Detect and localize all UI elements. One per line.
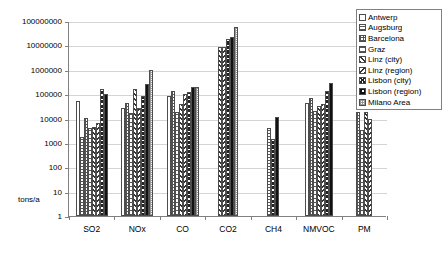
bar xyxy=(368,119,372,217)
legend-swatch-icon xyxy=(359,99,366,106)
y-axis-units-label: tons/a xyxy=(18,196,40,204)
y-axis-label: 1000 xyxy=(44,140,62,148)
legend-item-label: Milano Area xyxy=(368,98,410,107)
legend-item-lisbon-city[interactable]: Lisbon (city) xyxy=(359,76,439,87)
bar-group-so2 xyxy=(69,22,114,216)
y-axis-label: 10000000 xyxy=(26,42,62,50)
x-axis-tick xyxy=(205,216,206,220)
legend-item-barcelona[interactable]: Barcelona xyxy=(359,33,439,44)
legend-item-label: Lisbon (city) xyxy=(368,76,411,85)
bar xyxy=(329,83,333,217)
bar xyxy=(234,27,238,216)
x-axis-label-ch4: CH4 xyxy=(251,225,296,234)
bar xyxy=(275,117,279,216)
bar xyxy=(195,87,199,216)
legend-item-label: Lisbon (region) xyxy=(368,87,421,96)
legend-item-label: Linz (city) xyxy=(368,55,402,64)
x-axis-label-so2: SO2 xyxy=(69,225,114,234)
emissions-bar-chart: tons/a 100000000100000001000000100000100… xyxy=(0,0,446,258)
x-axis-label-co2: CO2 xyxy=(205,225,250,234)
legend-item-graz[interactable]: Graz xyxy=(359,44,439,55)
bar-group-nmvoc xyxy=(296,22,341,216)
chart-legend: AntwerpAugsburgBarcelonaGrazLinz (city)L… xyxy=(356,9,442,110)
legend-item-label: Linz (region) xyxy=(368,66,412,75)
x-axis-label-nox: NOx xyxy=(114,225,159,234)
x-axis-tick xyxy=(160,216,161,220)
legend-swatch-icon xyxy=(359,24,366,31)
bar-group-co2 xyxy=(205,22,250,216)
legend-swatch-icon xyxy=(359,67,366,74)
y-axis-label: 100000 xyxy=(35,91,62,99)
legend-item-augsburg[interactable]: Augsburg xyxy=(359,23,439,34)
bar-group-co xyxy=(160,22,205,216)
y-axis-label: 10 xyxy=(53,189,62,197)
legend-item-label: Antwerp xyxy=(368,13,397,22)
x-axis-tick xyxy=(342,216,343,220)
y-axis-label: 10000 xyxy=(40,116,62,124)
plot-area: 1000000001000000010000001000001000010001… xyxy=(68,22,386,217)
x-axis-tick xyxy=(387,216,388,220)
y-axis-label: 1 xyxy=(58,213,62,221)
y-axis-label: 1000000 xyxy=(31,67,62,75)
legend-item-antwerp[interactable]: Antwerp xyxy=(359,12,439,23)
legend-item-linz-city[interactable]: Linz (city) xyxy=(359,54,439,65)
legend-swatch-icon xyxy=(359,14,366,21)
legend-swatch-icon xyxy=(359,88,366,95)
x-axis-tick xyxy=(251,216,252,220)
x-axis-tick xyxy=(296,216,297,220)
legend-swatch-icon xyxy=(359,46,366,53)
x-axis-label-pm: PM xyxy=(342,225,387,234)
legend-item-label: Graz xyxy=(368,45,385,54)
x-axis-tick xyxy=(69,216,70,220)
bar xyxy=(104,94,108,216)
y-axis-label: 100 xyxy=(49,164,62,172)
x-axis-label-nmvoc: NMVOC xyxy=(296,225,341,234)
legend-item-label: Barcelona xyxy=(368,34,404,43)
legend-item-lisbon-region[interactable]: Lisbon (region) xyxy=(359,86,439,97)
legend-swatch-icon xyxy=(359,35,366,42)
legend-swatch-icon xyxy=(359,56,366,63)
legend-swatch-icon xyxy=(359,77,366,84)
bar-group-ch4 xyxy=(251,22,296,216)
bar xyxy=(149,70,153,216)
bar-group-nox xyxy=(114,22,159,216)
y-axis-label: 100000000 xyxy=(22,18,62,26)
x-axis-label-co: CO xyxy=(160,225,205,234)
legend-item-linz-region[interactable]: Linz (region) xyxy=(359,65,439,76)
x-axis-tick xyxy=(114,216,115,220)
legend-item-milano-area[interactable]: Milano Area xyxy=(359,97,439,108)
legend-item-label: Augsburg xyxy=(368,23,402,32)
